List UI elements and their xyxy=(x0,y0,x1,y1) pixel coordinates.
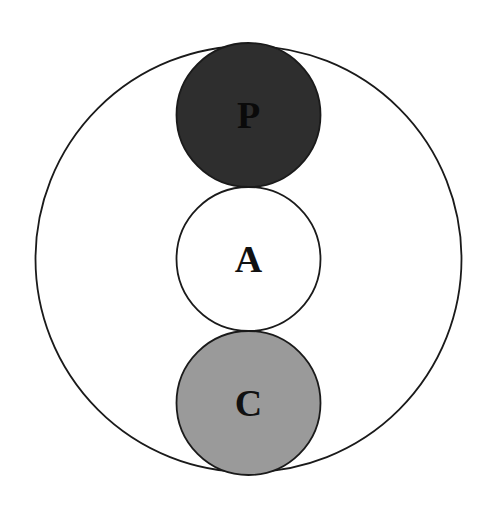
circle-p: P xyxy=(177,43,321,187)
label-a: A xyxy=(235,238,263,280)
circle-a: A xyxy=(177,187,321,331)
pac-diagram: P A C xyxy=(0,0,493,515)
label-c: C xyxy=(235,382,262,424)
label-p: P xyxy=(237,94,260,136)
circle-c: C xyxy=(177,331,321,475)
